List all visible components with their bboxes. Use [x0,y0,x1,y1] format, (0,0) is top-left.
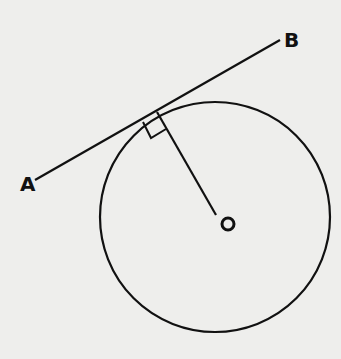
circle [100,102,330,332]
radius-line [157,112,216,215]
geometry-figure [0,0,341,359]
label-b: B [284,30,299,50]
label-a: A [20,174,35,194]
label-o: O [221,214,238,234]
tangent-line-ab [35,40,280,180]
diagram-canvas: A B O [0,0,341,359]
